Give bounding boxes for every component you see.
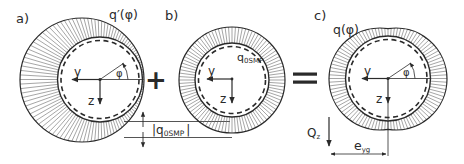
panel-b-label: b) bbox=[165, 8, 178, 23]
panel-b-z-label: z bbox=[220, 92, 226, 106]
panel-a-label: a) bbox=[16, 11, 29, 26]
panel-a-angle-label: φ bbox=[116, 68, 123, 79]
load-superposition-diagram: a) q′(φ) y z φ + |q0SMP| b) bbox=[0, 0, 464, 164]
panel-a-z-label: z bbox=[88, 94, 94, 108]
panel-b-origin-dot bbox=[231, 78, 234, 81]
panel-b: b) q0SMP y z bbox=[165, 8, 285, 133]
eyg-label: eyg bbox=[354, 138, 370, 154]
panel-c-z-label: z bbox=[376, 92, 382, 106]
equals-operator bbox=[293, 73, 317, 84]
dimension-label: |q0SMP| bbox=[152, 123, 190, 138]
panel-c-y-label: y bbox=[364, 64, 371, 78]
panel-c-angle-label: φ bbox=[403, 67, 410, 78]
dimension-q0smp: |q0SMP| bbox=[124, 112, 232, 147]
panel-b-y-label: y bbox=[208, 64, 215, 78]
panel-a-y-label: y bbox=[74, 65, 81, 79]
diagram-canvas: a) q′(φ) y z φ + |q0SMP| b) bbox=[0, 0, 464, 164]
panel-c: c) q(φ) y z φ Qz eyg bbox=[307, 8, 447, 156]
panel-c-load-label: q(φ) bbox=[333, 22, 359, 37]
panel-c-origin-dot bbox=[386, 77, 389, 80]
panel-c-label: c) bbox=[314, 8, 326, 23]
panel-a-load-label: q′(φ) bbox=[109, 7, 138, 22]
qz-force-label: Qz bbox=[307, 126, 320, 141]
panel-a-origin-dot bbox=[98, 78, 101, 81]
plus-operator: + bbox=[145, 65, 167, 95]
